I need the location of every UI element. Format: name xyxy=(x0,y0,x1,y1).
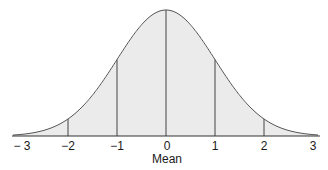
tick-label-3: 3 xyxy=(310,139,317,153)
tick-label-1: 1 xyxy=(212,139,219,153)
tick-label-0: 0 xyxy=(164,139,171,153)
tick-label-neg1: −1 xyxy=(110,139,124,153)
tick-label-neg3: − 3 xyxy=(13,139,30,153)
normal-curve-diagram: − 3 −2 −1 0 1 2 3 Mean xyxy=(0,0,328,170)
tick-label-2: 2 xyxy=(261,139,268,153)
tick-labels: − 3 −2 −1 0 1 2 3 xyxy=(13,139,316,153)
tick-label-neg2: −2 xyxy=(61,139,75,153)
x-axis-label: Mean xyxy=(152,152,182,166)
